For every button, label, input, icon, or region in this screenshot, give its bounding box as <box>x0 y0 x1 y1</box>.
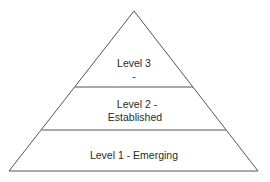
level-1-section: Level 1 - Emerging <box>90 149 178 161</box>
level-2-label-line2: Established <box>108 111 162 123</box>
pyramid-outline <box>9 11 258 171</box>
level-2-section: Level 2 - Established <box>108 98 162 123</box>
level-2-label-line1: Level 2 - <box>117 98 158 110</box>
pyramid-svg: Level 3 - Level 2 - Established Level 1 … <box>0 0 270 182</box>
level-1-label: Level 1 - Emerging <box>90 149 178 161</box>
level-3-label-line2: - <box>132 70 136 82</box>
level-3-label-line1: Level 3 <box>117 57 151 69</box>
pyramid-diagram: Level 3 - Level 2 - Established Level 1 … <box>0 0 270 182</box>
